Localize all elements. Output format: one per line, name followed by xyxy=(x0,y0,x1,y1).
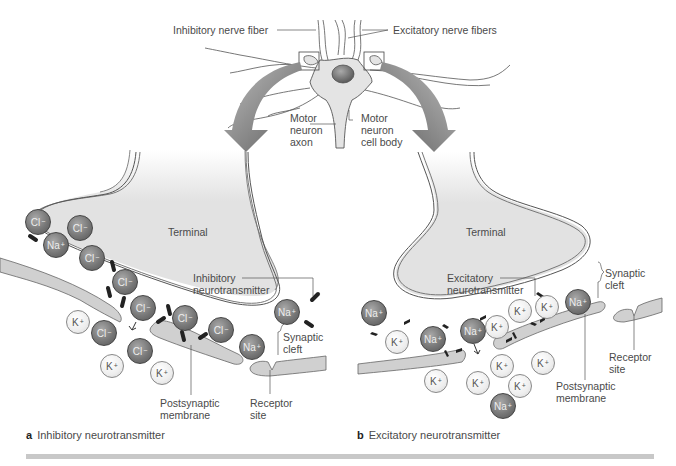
left-postsynaptic-membrane-label: Postsynaptic membrane xyxy=(160,397,220,421)
inhibitory-neurotransmitter-label: Inhibitory neurotransmitter xyxy=(193,272,269,296)
sodium-ion: Na+ xyxy=(490,393,516,419)
chloride-ion: Cl− xyxy=(67,215,93,241)
right-postsynaptic-membrane-label: Postsynaptic membrane xyxy=(556,380,616,404)
potassium-ion: K+ xyxy=(466,371,490,395)
chloride-ion: Cl− xyxy=(127,338,153,364)
motor-neuron-axon-label: Motor neuron axon xyxy=(290,112,323,148)
chloride-ion: Cl− xyxy=(25,209,51,235)
sodium-ion: Na+ xyxy=(460,318,486,344)
left-presynaptic-strip xyxy=(0,258,121,322)
potassium-ion: K+ xyxy=(490,354,514,378)
inhibitory-nerve-fiber-label: Inhibitory nerve fiber xyxy=(173,24,268,36)
nucleus xyxy=(332,65,354,83)
potassium-ion: K+ xyxy=(508,299,532,323)
caption-a: aInhibitory neurotransmitter xyxy=(26,429,165,441)
right-left-strip xyxy=(358,350,465,374)
right-synaptic-cleft-label: Synaptic cleft xyxy=(605,267,645,291)
chloride-ion: Cl− xyxy=(91,320,117,346)
caption-b: bExcitatory neurotransmitter xyxy=(357,429,500,441)
potassium-ion: K+ xyxy=(100,354,124,378)
potassium-ion: K+ xyxy=(385,330,409,354)
left-terminal-label: Terminal xyxy=(168,226,208,238)
right-receptor-strip xyxy=(613,298,662,322)
excitatory-nerve-fibers-label: Excitatory nerve fibers xyxy=(393,24,497,36)
chloride-ion: Cl− xyxy=(208,317,234,343)
sodium-ion: Na+ xyxy=(420,326,446,352)
sodium-ion: Na+ xyxy=(239,334,265,360)
left-receptor-strip xyxy=(250,356,326,376)
potassium-ion: K+ xyxy=(485,315,509,339)
left-synaptic-cleft-label: Synaptic cleft xyxy=(283,331,323,355)
chloride-ion: Cl− xyxy=(79,245,105,271)
caption-divider-bar xyxy=(26,454,654,459)
motor-neuron-cell-body-label: Motor neuron cell body xyxy=(361,112,402,148)
right-receptor-site-label: Receptor site xyxy=(609,351,652,375)
sodium-ion: Na+ xyxy=(274,299,300,325)
sodium-ion: Na+ xyxy=(565,289,591,315)
potassium-ion: K+ xyxy=(424,369,448,393)
right-terminal-label: Terminal xyxy=(466,226,506,238)
potassium-ion: K+ xyxy=(531,351,555,375)
chloride-ion: Cl− xyxy=(112,269,138,295)
potassium-ion: K+ xyxy=(508,374,532,398)
chloride-ion: Cl− xyxy=(130,295,156,321)
potassium-ion: K+ xyxy=(150,361,174,385)
left-receptor-site-label: Receptor site xyxy=(250,397,293,421)
chloride-ion: Cl− xyxy=(172,305,198,331)
sodium-ion: Na+ xyxy=(361,300,387,326)
excitatory-neurotransmitter-label: Excitatory neurotransmitter xyxy=(447,272,523,296)
potassium-ion: K+ xyxy=(535,295,559,319)
sodium-ion: Na+ xyxy=(43,232,69,258)
potassium-ion: K+ xyxy=(66,310,90,334)
